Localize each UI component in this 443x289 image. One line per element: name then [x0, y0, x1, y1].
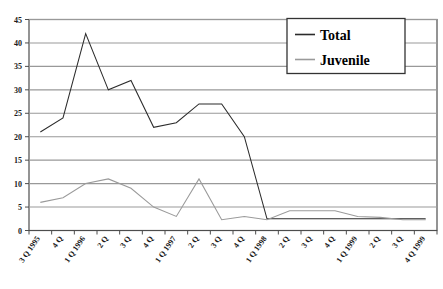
x-tick-label: 2 Q — [277, 234, 291, 249]
y-tick-label: 45 — [14, 16, 22, 25]
x-tick-label: 4 Q — [322, 234, 336, 249]
x-tick-label: 3 Q — [300, 234, 314, 249]
legend-label-total: Total — [320, 28, 351, 43]
x-tick-label: 2 Q — [368, 234, 382, 249]
x-tick-label: 3 Q 1995 — [17, 234, 42, 264]
y-tick-label: 40 — [14, 39, 22, 48]
x-tick-label: 3 Q — [390, 234, 404, 249]
y-tick-label: 10 — [14, 180, 22, 189]
x-tick-label: 4 Q — [50, 234, 64, 249]
y-tick-label: 5 — [18, 203, 22, 212]
y-axis-tick-labels: 051015202530354045 — [14, 16, 22, 236]
x-tick-label: 3 Q — [209, 234, 223, 249]
y-tick-label: 35 — [14, 62, 22, 71]
x-tick-label: 1 Q 1998 — [244, 234, 269, 264]
y-tick-label: 30 — [14, 86, 22, 95]
y-tick-label: 15 — [14, 156, 22, 165]
line-chart: 051015202530354045 3 Q 19954 Q1 Q 19962 … — [0, 0, 443, 289]
chart-legend: TotalJuvenile — [287, 19, 405, 74]
x-tick-label: 2 Q — [186, 234, 200, 249]
x-tick-label: 1 Q 1996 — [63, 234, 88, 264]
x-tick-label: 1 Q 1999 — [335, 234, 360, 264]
y-tick-label: 25 — [14, 109, 22, 118]
y-tick-label: 20 — [14, 133, 22, 142]
x-tick-label: 1 Q 1997 — [153, 234, 178, 264]
legend-label-juvenile: Juvenile — [320, 53, 370, 68]
x-tick-label: 4 Q 1999 — [403, 234, 428, 264]
x-tick-label: 2 Q — [96, 234, 110, 249]
x-tick-label: 4 Q — [141, 234, 155, 249]
x-axis-tickmarks — [29, 231, 437, 235]
y-tick-label: 0 — [18, 227, 22, 236]
x-tick-label: 4 Q — [232, 234, 246, 249]
chart-container: 051015202530354045 3 Q 19954 Q1 Q 19962 … — [0, 0, 443, 289]
x-axis-tick-labels: 3 Q 19954 Q1 Q 19962 Q3 Q4 Q1 Q 19972 Q3… — [17, 234, 427, 264]
x-tick-label: 3 Q — [118, 234, 132, 249]
